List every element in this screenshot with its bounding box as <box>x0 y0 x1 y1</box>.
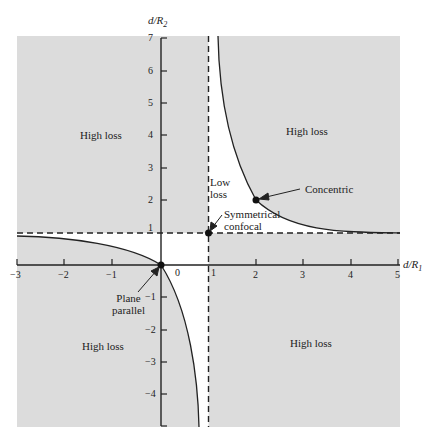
x-tick-label: −2 <box>58 270 69 280</box>
y-tick-label: −4 <box>145 389 156 399</box>
y-tick-label: −1 <box>145 292 156 302</box>
y-tick-label: 4 <box>148 130 153 140</box>
y-tick-label: 5 <box>148 98 153 108</box>
x-tick-label: 4 <box>348 270 353 280</box>
diagram-canvas <box>0 0 432 441</box>
x-tick-label: 0 <box>175 268 180 278</box>
y-tick-label: 2 <box>148 195 153 205</box>
y-axis-title: d/R2 <box>148 14 167 29</box>
region-label-low-loss: Low loss <box>210 176 230 200</box>
concentric-point <box>253 197 260 204</box>
region-label-bottom-right: High loss <box>290 337 332 349</box>
region-label-top-right: High loss <box>286 125 328 137</box>
x-tick-label: 2 <box>253 270 258 280</box>
y-tick-label: 6 <box>148 66 153 76</box>
x-tick-label: 3 <box>300 270 305 280</box>
plane-parallel-label: Plane parallel <box>112 292 145 316</box>
y-tick-label: 7 <box>148 33 153 43</box>
region-label-top-left: High loss <box>80 129 122 141</box>
region-label-bottom-left: High loss <box>82 340 124 352</box>
concentric-label: Concentric <box>305 183 353 195</box>
x-tick-label: −1 <box>106 270 117 280</box>
y-tick-label: 1 <box>148 223 153 233</box>
y-tick-label: 3 <box>148 163 153 173</box>
x-tick-label: 1 <box>211 268 216 278</box>
confocal-label: Symmetrical confocal <box>224 208 280 232</box>
y-tick-label: −3 <box>145 357 156 367</box>
stability-diagram: d/R2 d/R1 −3 −2 −1 0 1 2 3 4 5 7 6 5 4 3… <box>0 0 432 441</box>
y-tick-label: −2 <box>145 325 156 335</box>
x-tick-label: 5 <box>395 270 400 280</box>
x-axis-title: d/R1 <box>403 258 422 273</box>
x-tick-label: −3 <box>10 270 21 280</box>
